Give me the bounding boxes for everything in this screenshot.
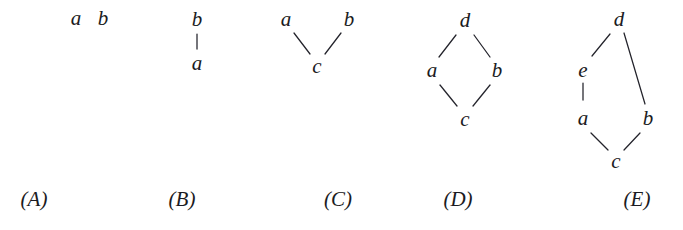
edge-e-d-e (592, 34, 610, 56)
node-c-a: a (281, 9, 292, 30)
edge-d-b-c (473, 85, 490, 106)
node-c-c: c (312, 56, 322, 77)
edge-d-d-b (474, 35, 490, 57)
diagram-caption-d: (D) (443, 189, 472, 210)
node-e-b: b (643, 108, 654, 129)
node-d-d: d (460, 10, 471, 31)
edge-e-b-c (624, 133, 640, 150)
node-a-a: a (71, 8, 82, 29)
node-c-b: b (344, 9, 355, 30)
edge-c-a-c (294, 33, 310, 54)
diagram-caption-a: (A) (21, 189, 48, 210)
node-b-a: a (192, 53, 203, 74)
edge-e-a-c (591, 133, 608, 150)
hasse-diagram-figure: abbaabcdabcdeabc (A)(B)(C)(D)(E) (0, 0, 683, 230)
node-e-a: a (578, 108, 589, 129)
node-e-d: d (614, 9, 625, 30)
diagram-caption-b: (B) (169, 189, 196, 210)
edge-e-d-b (624, 33, 645, 104)
node-b-b: b (192, 9, 203, 30)
node-a-b: b (98, 8, 109, 29)
node-d-a: a (427, 60, 438, 81)
node-d-c: c (460, 109, 470, 130)
edge-d-d-a (439, 35, 456, 57)
diagram-caption-c: (C) (324, 189, 352, 210)
edge-c-b-c (325, 33, 341, 54)
node-e-e: e (578, 60, 588, 81)
node-e-c: c (611, 151, 621, 172)
diagram-caption-e: (E) (624, 189, 651, 210)
edge-d-a-c (440, 85, 457, 106)
node-d-b: b (492, 60, 503, 81)
